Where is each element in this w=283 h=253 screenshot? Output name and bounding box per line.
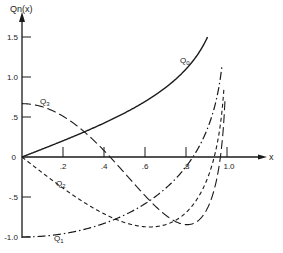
x-tick-label: .4 [101,162,108,171]
curve-q1 [22,67,222,237]
labels: .2.4.6.81.01.51.0.5-.5-1.00Qn(x)xQ0Q3Q2Q… [4,4,274,244]
curve-q2 [22,89,224,227]
y-tick-label: 1.0 [7,73,19,82]
x-tick-label: 1.0 [223,162,235,171]
chart-canvas: .2.4.6.81.01.51.0.5-.5-1.00Qn(x)xQ0Q3Q2Q… [0,0,283,253]
y-tick-label: 1.5 [7,33,19,42]
x-axis-label: x [269,152,274,162]
origin-label: 0 [12,153,17,162]
axes [19,12,267,238]
x-tick-label: .8 [183,162,190,171]
curve-label-q0: Q0 [180,56,190,66]
curve-label-q1: Q1 [54,234,64,244]
x-axis-arrow-icon [258,155,267,160]
curves [22,37,225,237]
y-tick-label: -.5 [9,193,19,202]
curve-q3 [22,101,225,225]
y-axis-label: Qn(x) [10,4,33,14]
curve-label-q2: Q2 [56,179,66,189]
curve-label-q3: Q3 [40,97,50,107]
x-tick-label: .6 [142,162,149,171]
y-tick-label: .5 [11,113,18,122]
x-tick-label: .2 [60,162,67,171]
y-tick-label: -1.0 [4,233,18,242]
